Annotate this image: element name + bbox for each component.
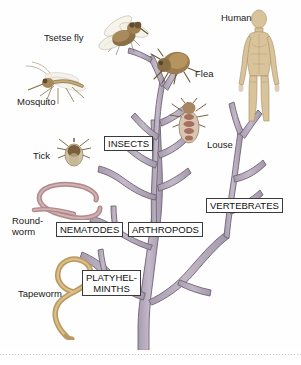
figure-page: Tsetse fly Flea Human Mosquito Louse Tic…: [0, 0, 301, 365]
roundworm-illustration: [30, 178, 106, 220]
label-human: Human: [221, 12, 252, 23]
clade-label-vertebrates: VERTEBRATES: [206, 198, 283, 213]
label-mosquito: Mosquito: [17, 96, 56, 107]
dotted-divider: [0, 354, 301, 355]
clade-label-insects: INSECTS: [104, 136, 153, 151]
louse-illustration: [168, 97, 210, 149]
clade-label-arthropods: ARTHROPODS: [128, 222, 203, 237]
label-tick: Tick: [33, 150, 50, 161]
clade-label-platyhelminths: PLATYHEL- MINTHS: [82, 270, 141, 296]
footer-faint-text: [2, 357, 299, 365]
flea-illustration: [148, 46, 200, 86]
clade-label-nematodes: NEMATODES: [56, 222, 123, 237]
label-tapeworm: Tapeworm: [18, 288, 62, 299]
footer-strip: [0, 350, 301, 365]
label-roundworm: Round- worm: [12, 215, 43, 237]
label-flea: Flea: [195, 68, 213, 79]
tick-illustration: [55, 133, 93, 171]
phylogeny-figure: Tsetse fly Flea Human Mosquito Louse Tic…: [0, 0, 301, 350]
human-figure-illustration: [236, 8, 282, 124]
label-louse: Louse: [207, 139, 233, 150]
faint-background-text: [20, 338, 280, 346]
label-tsetse-fly: Tsetse fly: [44, 32, 84, 43]
